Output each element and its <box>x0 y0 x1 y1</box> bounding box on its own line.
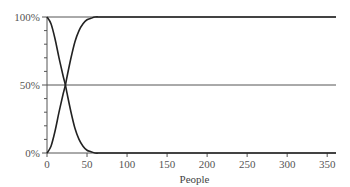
x-tick-label: 100 <box>119 158 136 170</box>
x-tick-label: 250 <box>239 158 256 170</box>
x-tick-label: 50 <box>82 158 94 170</box>
y-tick-label: 0% <box>25 147 40 159</box>
y-tick-label: 50% <box>20 79 40 91</box>
x-tick-label: 300 <box>279 158 296 170</box>
tick-labels: 0%50%100%050100150200250300350 <box>14 11 336 170</box>
x-tick-label: 150 <box>159 158 176 170</box>
grid-lines <box>47 17 336 153</box>
y-tick-label: 100% <box>14 11 40 23</box>
chart: 0%50%100%050100150200250300350 People <box>0 0 350 187</box>
x-tick-label: 0 <box>44 158 50 170</box>
axes <box>42 17 327 157</box>
x-tick-label: 200 <box>199 158 216 170</box>
x-axis-title: People <box>180 173 210 185</box>
x-tick-label: 350 <box>319 158 336 170</box>
